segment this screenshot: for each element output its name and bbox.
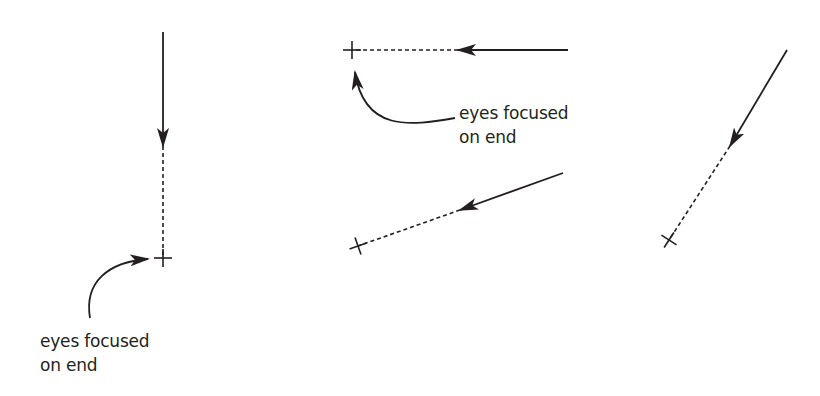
- annotation-line-2: on end: [459, 125, 568, 149]
- approach-arrow: [730, 50, 787, 146]
- panel-vertical: [89, 32, 172, 318]
- end-cross-icon: [347, 235, 370, 258]
- approach-arrow: [460, 173, 563, 210]
- curved-pointer-arrow: [89, 259, 148, 318]
- annotation-line-1: eyes focused: [459, 101, 568, 125]
- annotation-line-2: on end: [40, 353, 149, 377]
- end-cross-icon: [343, 41, 361, 59]
- annotation-line-1: eyes focused: [40, 329, 149, 353]
- panel-shallow-diagonal: [347, 173, 563, 257]
- annotation-vertical: eyes focused on end: [40, 329, 149, 377]
- annotation-horizontal: eyes focused on end: [459, 101, 568, 149]
- dashed-path: [358, 210, 460, 246]
- end-cross-icon: [657, 228, 682, 253]
- end-cross-icon: [154, 249, 172, 267]
- panel-steep-diagonal: [657, 50, 787, 252]
- curved-pointer-arrow: [355, 72, 455, 123]
- dashed-path: [669, 146, 730, 240]
